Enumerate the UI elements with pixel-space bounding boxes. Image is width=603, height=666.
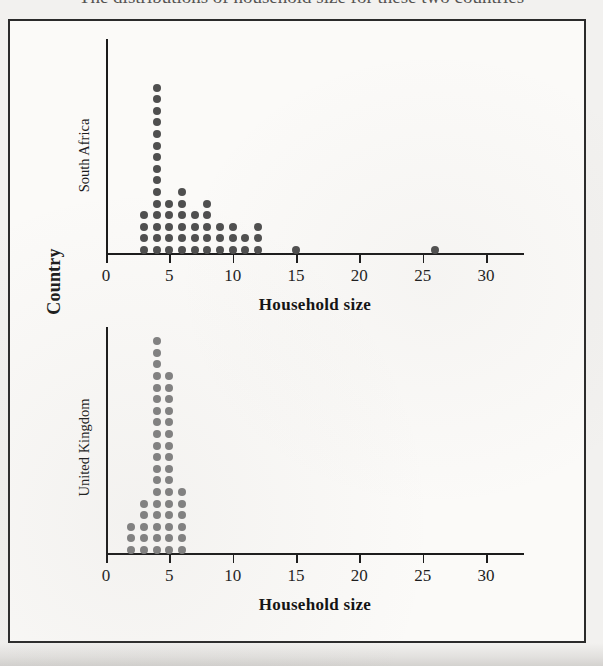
x-tick-25: [423, 255, 425, 263]
x-tick-label-5: 5: [165, 566, 174, 586]
data-dot: [153, 349, 161, 357]
data-dot: [153, 500, 161, 508]
data-dot: [153, 246, 161, 254]
data-dot: [153, 84, 161, 92]
x-tick-30: [486, 255, 488, 263]
x-axis-title-south-africa: Household size: [106, 295, 524, 315]
x-tick-label-10: 10: [224, 266, 241, 286]
data-dot: [165, 246, 173, 254]
x-tick-10: [233, 255, 235, 263]
panel-label-south-africa: South Africa: [76, 66, 93, 246]
data-dot: [165, 511, 173, 519]
data-dot: [153, 476, 161, 484]
x-tick-25: [423, 555, 425, 563]
data-dot: [229, 223, 237, 231]
plot-area-south-africa: 051015202530: [106, 39, 524, 255]
data-dot: [153, 211, 161, 219]
scan-shadow-band: [0, 643, 603, 666]
x-tick-label-20: 20: [351, 566, 368, 586]
data-dot: [153, 223, 161, 231]
data-dot: [178, 500, 186, 508]
data-dot: [165, 488, 173, 496]
data-dot: [191, 246, 199, 254]
data-dot: [153, 165, 161, 173]
data-dot: [178, 223, 186, 231]
x-tick-0: [106, 255, 108, 263]
x-tick-15: [296, 255, 298, 263]
page-caption-text: The distributions of household size for …: [0, 0, 603, 8]
data-dot: [153, 107, 161, 115]
data-dot: [165, 395, 173, 403]
data-dot: [153, 442, 161, 450]
data-dot: [153, 130, 161, 138]
axis-spine-left: [106, 39, 108, 255]
data-dot: [140, 246, 148, 254]
data-dot: [153, 418, 161, 426]
data-dot: [165, 200, 173, 208]
data-dot: [165, 407, 173, 415]
data-dot: [127, 534, 135, 542]
figure-frame: Country South Africa051015202530Househol…: [8, 19, 586, 643]
data-dot: [431, 246, 439, 254]
data-dot: [254, 234, 262, 242]
data-dot: [203, 234, 211, 242]
data-dot: [165, 430, 173, 438]
data-dot: [165, 223, 173, 231]
data-dot: [153, 407, 161, 415]
data-dot: [203, 211, 211, 219]
data-dot: [153, 523, 161, 531]
data-dot: [127, 523, 135, 531]
data-dot: [178, 488, 186, 496]
data-dot: [178, 511, 186, 519]
data-dot: [153, 534, 161, 542]
x-tick-label-15: 15: [288, 566, 305, 586]
data-dot: [165, 546, 173, 554]
data-dot: [216, 223, 224, 231]
data-dot: [241, 246, 249, 254]
panel-united-kingdom: United Kingdom051015202530Household size: [10, 319, 584, 577]
data-dot: [153, 337, 161, 345]
data-dot: [140, 211, 148, 219]
data-dot: [241, 234, 249, 242]
data-dot: [127, 546, 135, 554]
x-tick-label-30: 30: [478, 566, 495, 586]
x-axis-title-united-kingdom: Household size: [106, 595, 524, 615]
data-dot: [165, 453, 173, 461]
x-tick-20: [359, 255, 361, 263]
x-tick-label-30: 30: [478, 266, 495, 286]
data-dot: [178, 200, 186, 208]
data-dot: [153, 176, 161, 184]
data-dot: [140, 500, 148, 508]
x-tick-label-20: 20: [351, 266, 368, 286]
data-dot: [292, 246, 300, 254]
data-dot: [178, 534, 186, 542]
data-dot: [153, 395, 161, 403]
data-dot: [153, 142, 161, 150]
data-dot: [153, 118, 161, 126]
data-dot: [153, 384, 161, 392]
x-tick-10: [233, 555, 235, 563]
data-dot: [140, 234, 148, 242]
x-tick-label-5: 5: [165, 266, 174, 286]
data-dot: [178, 546, 186, 554]
panel-label-united-kingdom: United Kingdom: [76, 358, 93, 538]
data-dot: [153, 188, 161, 196]
x-tick-15: [296, 555, 298, 563]
data-dot: [153, 372, 161, 380]
data-dot: [153, 511, 161, 519]
x-tick-20: [359, 555, 361, 563]
data-dot: [140, 546, 148, 554]
data-dot: [165, 234, 173, 242]
data-dot: [216, 246, 224, 254]
data-dot: [165, 442, 173, 450]
x-tick-label-10: 10: [224, 566, 241, 586]
plot-area-united-kingdom: 051015202530: [106, 327, 524, 555]
data-dot: [254, 223, 262, 231]
data-dot: [140, 511, 148, 519]
data-dot: [216, 234, 224, 242]
data-dot: [153, 430, 161, 438]
data-dot: [153, 488, 161, 496]
x-tick-label-25: 25: [414, 566, 431, 586]
data-dot: [153, 95, 161, 103]
data-dot: [229, 234, 237, 242]
